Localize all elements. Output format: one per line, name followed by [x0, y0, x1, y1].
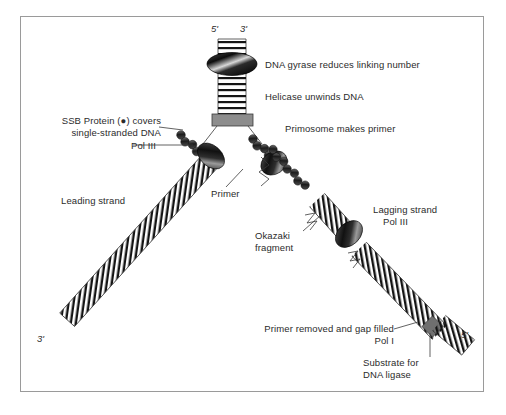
label-ligase-line2: DNA ligase: [363, 369, 411, 381]
parent-duplex: [218, 39, 246, 120]
label-bottom-left-prime: 3': [37, 333, 44, 344]
label-leading-strand: Leading strand: [61, 195, 125, 207]
diagram-frame: 5' 3' DNA gyrase reduces linking number …: [20, 16, 484, 392]
label-top-five-prime: 5': [211, 23, 218, 34]
label-okazaki-line2: fragment: [255, 242, 293, 254]
label-pol-iii-leading: Pol III: [61, 140, 156, 152]
label-pol-i-line1: Primer removed and gap filled: [211, 323, 394, 335]
label-lagging-strand: Lagging strand: [373, 204, 437, 216]
diagram-canvas: 5' 3' DNA gyrase reduces linking number …: [0, 0, 506, 415]
label-dna-gyrase: DNA gyrase reduces linking number: [265, 59, 420, 71]
label-okazaki-line1: Okazaki: [255, 230, 290, 242]
label-bottom-right-prime: 5': [461, 329, 468, 340]
leading-strand-duplex: [60, 153, 219, 326]
label-lagging-pol-iii: Pol III: [383, 216, 408, 228]
label-primosome: Primosome makes primer: [285, 123, 395, 135]
dna-gyrase-icon: [207, 53, 257, 76]
label-ssb-protein-line1: SSB Protein (●) covers: [11, 115, 161, 127]
label-ligase-line1: Substrate for: [363, 357, 419, 369]
label-top-three-prime: 3': [240, 23, 247, 34]
label-ssb-protein-line2: single-stranded DNA: [11, 127, 161, 139]
label-primer: Primer: [211, 188, 240, 200]
label-helicase: Helicase unwinds DNA: [265, 91, 364, 103]
helicase-icon: [212, 114, 253, 126]
label-pol-i-line2: Pol I: [211, 335, 394, 347]
